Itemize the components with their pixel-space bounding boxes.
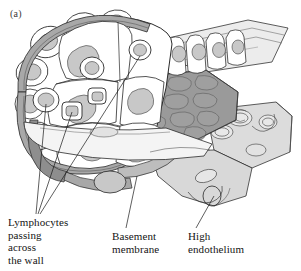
figure-root: (a) bbox=[0, 0, 301, 271]
callout-high-endothelium: High endothelium bbox=[188, 230, 244, 255]
callout-basement-membrane: Basement membrane bbox=[112, 230, 159, 255]
callout-lymphocytes: Lymphocytes passing across the wall bbox=[8, 216, 68, 266]
